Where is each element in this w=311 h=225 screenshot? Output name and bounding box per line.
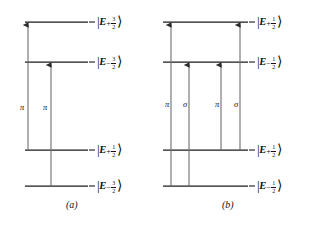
ket-close-icon: ⟩: [277, 142, 282, 157]
panel-b-canvas: [155, 0, 311, 225]
panel-b: |E+12⟩ |E−12⟩ |E+12⟩ |E−12⟩ π σ π σ: [155, 0, 311, 225]
level-fraction: 32: [111, 56, 116, 69]
level-fraction: 32: [111, 180, 116, 193]
level-label-a-3: |E+12⟩: [97, 143, 121, 158]
panel-caption-a: (a): [66, 200, 78, 210]
level-sign: −: [266, 182, 271, 192]
level-fraction: 12: [271, 144, 276, 157]
level-sign: −: [266, 58, 271, 68]
polarization-label-b-4: σ: [234, 100, 238, 109]
ket-close-icon: ⟩: [117, 14, 122, 29]
ket-close-icon: ⟩: [117, 54, 122, 69]
level-label-b-2: |E−12⟩: [257, 55, 281, 70]
level-label-b-3: |E+12⟩: [257, 143, 281, 158]
panel-a: |E+32⟩ |E−32⟩ |E+12⟩ |E−32⟩ π π: [0, 0, 156, 225]
level-label-b-4: |E−12⟩: [257, 179, 281, 194]
ket-close-icon: ⟩: [117, 178, 122, 193]
level-sign: +: [266, 146, 271, 156]
ket-close-icon: ⟩: [277, 54, 282, 69]
level-label-a-1: |E+32⟩: [97, 15, 121, 30]
ket-close-icon: ⟩: [117, 142, 122, 157]
level-label-a-4: |E−32⟩: [97, 179, 121, 194]
level-sign: +: [266, 18, 271, 28]
polarization-label-a-2: π: [43, 103, 47, 112]
ket-close-icon: ⟩: [277, 14, 282, 29]
panel-a-transitions: [28, 25, 51, 186]
level-fraction: 12: [271, 180, 276, 193]
level-fraction: 12: [271, 56, 276, 69]
level-fraction: 12: [271, 16, 276, 29]
polarization-label-b-3: π: [215, 100, 219, 109]
panel-caption-b: (b): [222, 200, 234, 210]
panel-a-levels: [25, 22, 88, 186]
polarization-label-a-1: π: [20, 103, 24, 112]
polarization-label-b-1: π: [165, 100, 169, 109]
level-sign: +: [106, 146, 111, 156]
level-fraction: 12: [111, 144, 116, 157]
panel-b-label-dashes: [249, 22, 255, 186]
level-label-b-1: |E+12⟩: [257, 15, 281, 30]
level-fraction: 32: [111, 16, 116, 29]
panel-b-transitions: [171, 25, 240, 186]
level-label-a-2: |E−32⟩: [97, 55, 121, 70]
energy-level-diagram-figure: |E+32⟩ |E−32⟩ |E+12⟩ |E−32⟩ π π: [0, 0, 311, 225]
panel-a-label-dashes: [89, 22, 95, 186]
level-sign: −: [106, 58, 111, 68]
level-sign: +: [106, 18, 111, 28]
polarization-label-b-2: σ: [183, 100, 187, 109]
ket-close-icon: ⟩: [277, 178, 282, 193]
panel-a-canvas: [0, 0, 156, 225]
level-sign: −: [106, 182, 111, 192]
